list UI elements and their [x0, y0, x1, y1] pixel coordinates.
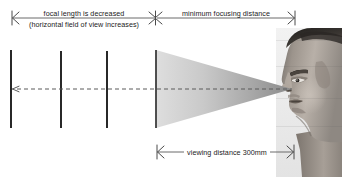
focal-length-dimension: focal length is decreased (horizontal fi…: [12, 9, 162, 29]
minimum-focusing-distance-dimension: minimum focusing distance: [157, 9, 295, 26]
minimum-focusing-distance-label: minimum focusing distance: [182, 9, 270, 18]
focal-length-sublabel: (horizontal field of view increases): [29, 20, 139, 29]
observer-head-photo: [276, 28, 342, 177]
diagram-root: focal length is decreased (horizontal fi…: [0, 0, 342, 177]
optics-diagram: focal length is decreased (horizontal fi…: [0, 0, 342, 177]
viewing-distance-label: viewing distance 300mm: [187, 148, 267, 157]
viewing-distance-dimension: viewing distance 300mm: [157, 145, 294, 159]
focal-length-label: focal length is decreased: [44, 9, 125, 18]
